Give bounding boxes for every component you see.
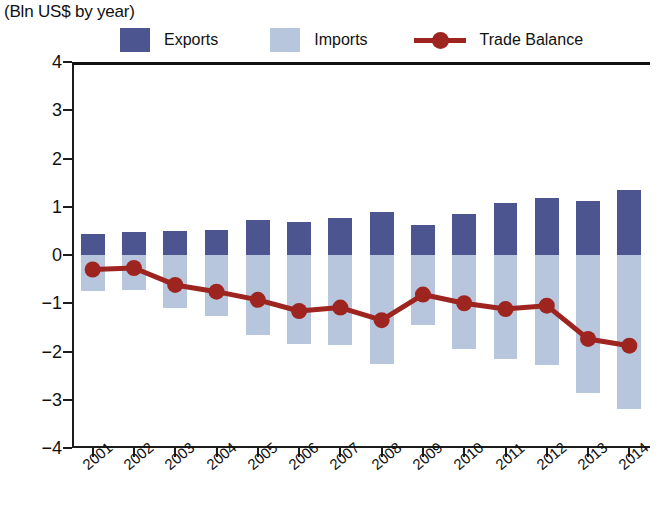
trade-balance-point <box>85 261 101 277</box>
trade-balance-point <box>332 300 348 316</box>
y-axis-label: −2 <box>22 341 62 362</box>
trade-balance-point <box>415 287 431 303</box>
imports-swatch-icon <box>270 28 300 52</box>
chart-legend: Exports Imports Trade Balance <box>120 28 583 52</box>
trade-balance-point <box>580 331 596 347</box>
trade-balance-line <box>72 62 650 448</box>
trade-balance-point <box>167 277 183 293</box>
legend-label-exports: Exports <box>164 31 218 49</box>
trade-balance-point <box>456 295 472 311</box>
y-tick <box>63 302 72 304</box>
y-tick <box>63 351 72 353</box>
y-tick <box>63 158 72 160</box>
y-tick <box>63 399 72 401</box>
y-tick <box>63 206 72 208</box>
y-tick <box>63 61 72 63</box>
y-axis-label: −3 <box>22 389 62 410</box>
trade-balance-point <box>498 301 514 317</box>
y-tick <box>63 109 72 111</box>
legend-item-trade-balance: Trade Balance <box>414 29 583 51</box>
trade-balance-point <box>250 292 266 308</box>
trade-balance-point <box>374 312 390 328</box>
trade-balance-point <box>291 303 307 319</box>
trade-balance-point <box>209 284 225 300</box>
y-tick <box>63 254 72 256</box>
legend-item-exports: Exports <box>120 28 218 52</box>
y-tick <box>63 447 72 449</box>
y-axis-label: 3 <box>22 100 62 121</box>
trade-balance-point <box>539 298 555 314</box>
y-axis-label: −1 <box>22 293 62 314</box>
y-axis-label: 4 <box>22 52 62 73</box>
trade-balance-marker-icon <box>414 29 466 51</box>
legend-item-imports: Imports <box>270 28 367 52</box>
legend-label-imports: Imports <box>314 31 367 49</box>
y-axis-label: −4 <box>22 438 62 459</box>
y-axis-label: 0 <box>22 245 62 266</box>
trade-balance-point <box>621 338 637 354</box>
trade-chart: Exports, Imports and Trade Balance (Bln … <box>0 0 661 505</box>
chart-subtitle: (Bln US$ by year) <box>4 2 135 22</box>
y-axis-label: 1 <box>22 196 62 217</box>
trade-balance-point <box>126 260 142 276</box>
plot-area: 43210−1−2−3−4 20012002200320042005200620… <box>72 62 650 448</box>
exports-swatch-icon <box>120 28 150 52</box>
legend-label-trade-balance: Trade Balance <box>480 31 583 49</box>
y-axis-label: 2 <box>22 148 62 169</box>
